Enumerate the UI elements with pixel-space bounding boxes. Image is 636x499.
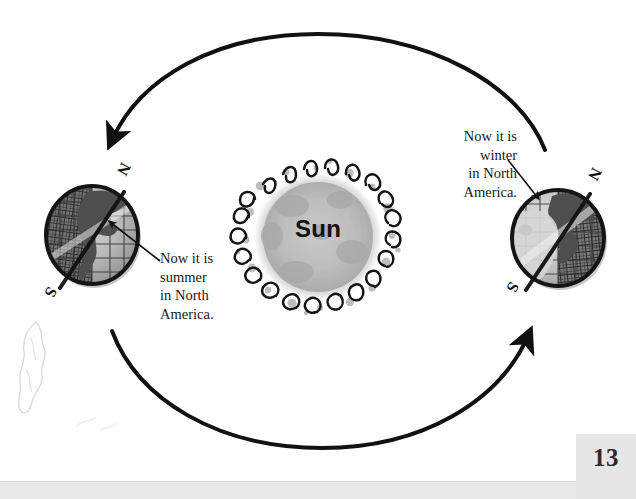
- bottom-orbit-arrow: [112, 331, 528, 448]
- earth-winter: [510, 188, 607, 290]
- callout-summer-text: Now it is summer in North America.: [160, 249, 255, 323]
- page-number: 13: [593, 445, 619, 488]
- callout-winter-text: Now it is winter in North America.: [415, 127, 517, 201]
- earth-summer: [44, 184, 141, 288]
- sun-label: Sun: [285, 215, 351, 243]
- page-number-box: 13: [576, 434, 636, 499]
- diagram-page: Sun Now it is summer in North America. N…: [0, 0, 636, 499]
- page-bottom-band: [0, 481, 636, 499]
- scan-smudge-secondary: [70, 405, 120, 445]
- scan-smudge: [10, 318, 62, 423]
